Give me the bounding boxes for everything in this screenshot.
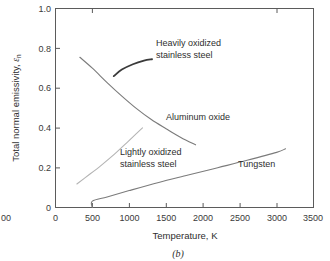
x-ticklabel-3000: 3000: [267, 213, 287, 223]
y-ticklabel-0.4: 0.4: [38, 123, 51, 133]
y-ticklabel-0.8: 0.8: [38, 44, 51, 54]
annotation-heavily-oxidized: Heavily oxidized stainless steel: [156, 38, 221, 60]
epsilon-subscript: n: [15, 54, 22, 58]
clipped-neighbor-ticklabel: 00: [1, 213, 11, 223]
annotation-aluminum-oxide-line1: Aluminum oxide: [166, 112, 230, 122]
y-axis-title-text: Total normal emissivity,: [10, 62, 21, 162]
annotation-lightly-oxidized: Lightly oxidized stainless steel: [120, 147, 182, 169]
svg-text:Total normal emissivity, εn: Total normal emissivity, εn: [10, 54, 22, 162]
x-ticklabel-2500: 2500: [230, 213, 250, 223]
curve-heavily-oxidized-stainless-steel: [114, 59, 152, 76]
figure-caption: (b): [172, 248, 184, 260]
annotation-heavily-oxidized-line2: stainless steel: [156, 50, 213, 60]
annotation-tungsten-line1: Tungsten: [238, 159, 275, 169]
figure-container: 1.0 0.8 0.6 0.4 0.2 0 0 500 1000 1500 20…: [0, 0, 330, 261]
annotation-aluminum-oxide: Aluminum oxide: [166, 112, 230, 122]
y-axis-ticks: [56, 9, 61, 208]
x-ticklabel-3500: 3500: [303, 213, 323, 223]
x-axis-title: Temperature, K: [153, 230, 219, 241]
x-ticklabel-1500: 1500: [156, 213, 176, 223]
y-ticklabel-1.0: 1.0: [38, 4, 51, 14]
x-ticklabel-2000: 2000: [193, 213, 213, 223]
x-ticklabel-500: 500: [85, 213, 100, 223]
annotation-heavily-oxidized-line1: Heavily oxidized: [156, 38, 221, 48]
annotation-lightly-oxidized-line1: Lightly oxidized: [120, 147, 182, 157]
y-axis-title: Total normal emissivity, εn: [10, 54, 22, 162]
x-ticklabel-0: 0: [53, 213, 58, 223]
y-ticklabel-0.6: 0.6: [38, 83, 51, 93]
y-ticklabel-0.2: 0.2: [38, 163, 51, 173]
y-ticklabel-0: 0: [46, 203, 51, 213]
annotation-tungsten: Tungsten: [238, 159, 275, 169]
y-axis-tick-labels: 1.0 0.8 0.6 0.4 0.2 0: [38, 4, 51, 213]
curve-tungsten: [91, 149, 285, 208]
x-axis-tick-labels: 0 500 1000 1500 2000 2500 3000 3500: [53, 213, 323, 223]
x-ticklabel-1000: 1000: [119, 213, 139, 223]
emissivity-vs-temperature-chart: 1.0 0.8 0.6 0.4 0.2 0 0 500 1000 1500 20…: [0, 0, 330, 261]
annotation-lightly-oxidized-line2: stainless steel: [120, 159, 177, 169]
